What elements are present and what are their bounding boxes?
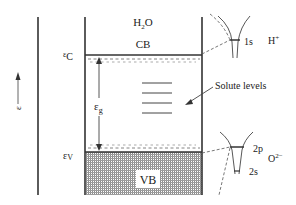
o-2p-label: 2p <box>253 143 263 154</box>
valence-band-label: VB <box>140 173 157 187</box>
oxygen-potential-well <box>202 132 253 195</box>
oxygen-ion-label: O2− <box>268 152 283 164</box>
cb-edge-label: εC <box>63 50 73 62</box>
solvent-label: H2O <box>133 16 152 31</box>
solute-levels-label: Solute levels <box>215 80 266 91</box>
energy-axis-arrow <box>16 72 21 104</box>
energy-axis-label: ε <box>13 106 23 110</box>
solute-levels <box>142 83 172 113</box>
solute-pointer-arrow <box>185 87 213 105</box>
hydrogen-potential-well <box>202 14 250 58</box>
o-2s-label: 2s <box>249 166 258 177</box>
o-level-connector <box>202 147 230 153</box>
vb-edge-label: εV <box>63 150 73 162</box>
h-1s-label: 1s <box>244 36 253 47</box>
conduction-band-label: CB <box>136 38 151 50</box>
band-gap-label: εg <box>94 100 103 115</box>
band-diagram: ε VB εg εC εV H2O CB Solute levels <box>0 0 296 205</box>
h-level-connector <box>202 40 230 54</box>
o-well-dashed-edge <box>219 148 230 195</box>
hydrogen-ion-label: H+ <box>268 34 279 46</box>
